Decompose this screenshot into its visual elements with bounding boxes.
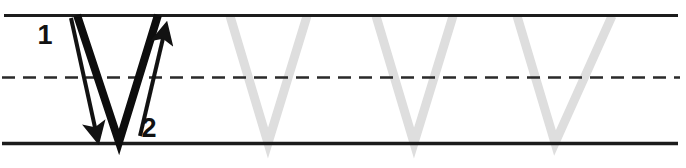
tracing-letter-v-1 <box>230 16 307 143</box>
tracing-letter-v-3 <box>517 16 612 143</box>
handwriting-worksheet: 12 <box>0 0 686 168</box>
stroke-order-label-1: 1 <box>37 20 52 50</box>
tracing-letter-v-2 <box>376 16 453 143</box>
worksheet-canvas: 12 <box>0 0 686 168</box>
stroke-order-label-2: 2 <box>141 113 156 143</box>
tracing-letters-group <box>230 16 612 143</box>
